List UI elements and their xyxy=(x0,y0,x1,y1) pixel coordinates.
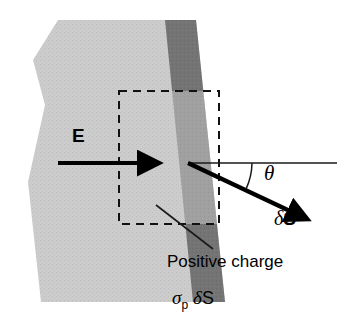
sigma-subscript: p xyxy=(181,298,188,312)
diagram-canvas xyxy=(0,0,352,322)
physics-diagram: E θ δS Positive charge σp δS xyxy=(0,0,352,322)
angle-arc xyxy=(246,163,252,189)
delta-s-label: δS xyxy=(274,208,296,228)
s-glyph-2: S xyxy=(202,288,214,308)
delta-glyph-2: δ xyxy=(193,287,202,308)
positive-charge-label: Positive charge xyxy=(167,253,283,270)
surface-charge-label: σp δS xyxy=(172,288,214,311)
s-glyph: S xyxy=(283,208,296,229)
delta-glyph: δ xyxy=(274,207,283,229)
sigma-glyph: σ xyxy=(172,287,181,308)
e-field-label: E xyxy=(72,126,85,145)
angle-theta-label: θ xyxy=(264,163,274,184)
